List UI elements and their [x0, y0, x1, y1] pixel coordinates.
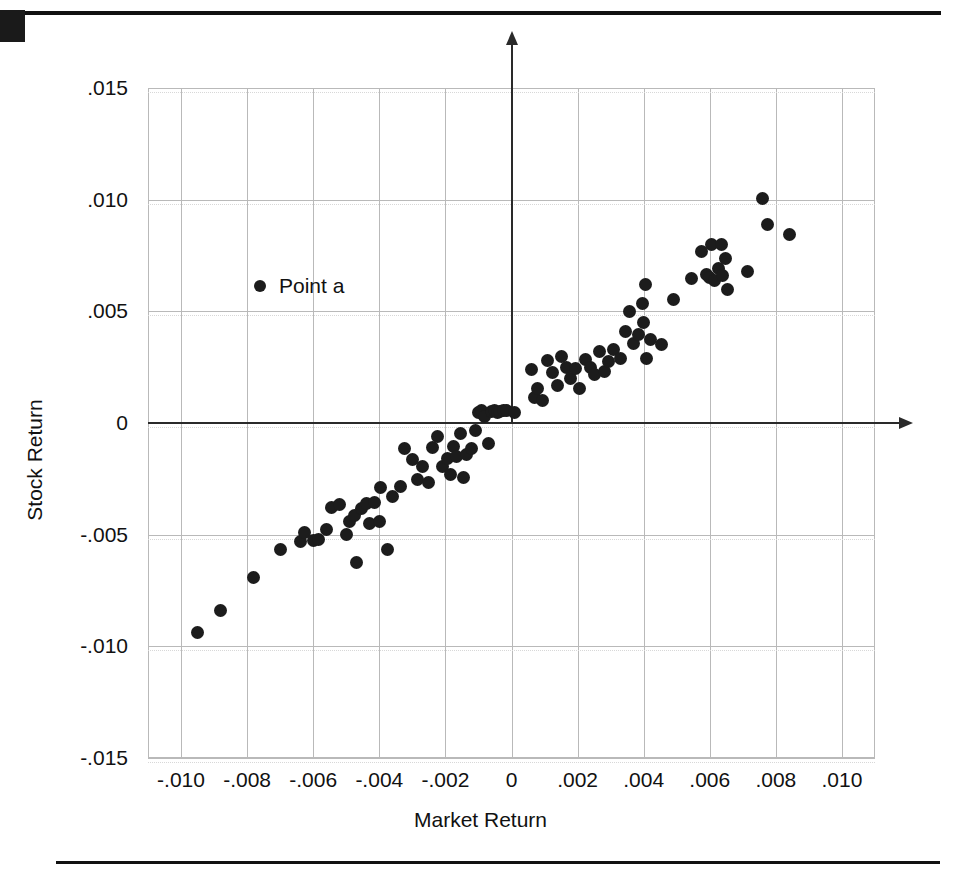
x-tick-label: -.010: [157, 768, 205, 792]
x-tick-label: -.006: [289, 768, 337, 792]
y-tick-label: .015: [0, 76, 128, 100]
x-axis-title: Market Return: [0, 808, 961, 832]
scatter-point: [469, 424, 482, 437]
y-tick-label: .005: [0, 299, 128, 323]
legend-label: Point a: [279, 274, 344, 298]
scatter-point: [761, 218, 774, 231]
x-tick-label: 0: [506, 768, 518, 792]
gridline-horizontal-dotted: [148, 539, 875, 540]
y-tick-label: -.005: [0, 523, 128, 547]
gridline-horizontal-dotted: [148, 762, 875, 763]
scatter-point: [667, 293, 680, 306]
scatter-point: [721, 283, 734, 296]
scatter-point: [416, 460, 429, 473]
scatter-point: [274, 543, 287, 556]
y-tick-label: 0: [0, 411, 128, 435]
scatter-point: [454, 427, 467, 440]
x-axis-line: [148, 422, 899, 424]
scatter-point: [525, 363, 538, 376]
scatter-point: [422, 476, 435, 489]
scatter-point: [482, 437, 495, 450]
scatter-point: [368, 496, 381, 509]
y-tick-label: -.010: [0, 634, 128, 658]
scatter-point: [444, 468, 457, 481]
gridline-horizontal: [148, 646, 875, 647]
gridline-horizontal: [148, 758, 875, 759]
x-tick-label: .010: [822, 768, 863, 792]
bottom-rule: [56, 861, 940, 864]
scatter-point: [247, 571, 260, 584]
legend: Point a: [254, 274, 344, 298]
top-rule: [25, 11, 941, 15]
scatter-point: [639, 278, 652, 291]
scatter-point: [426, 441, 439, 454]
gridline-horizontal: [148, 535, 875, 536]
corner-block-decoration: [0, 10, 25, 42]
scatter-point: [340, 528, 353, 541]
scatter-point: [715, 238, 728, 251]
y-axis-title: Stock Return: [23, 260, 47, 660]
scatter-point: [320, 523, 333, 536]
figure: Point a -.010-.008-.006-.004-.0020.002.0…: [0, 0, 961, 877]
x-axis-arrow-icon: [899, 417, 913, 429]
y-axis-line: [511, 45, 513, 423]
x-tick-label: .004: [623, 768, 664, 792]
x-tick-label: .008: [755, 768, 796, 792]
y-tick-label: .010: [0, 188, 128, 212]
scatter-point: [741, 265, 754, 278]
gridline-horizontal-dotted: [148, 427, 875, 428]
scatter-point: [350, 556, 363, 569]
scatter-point: [431, 430, 444, 443]
scatter-point: [373, 515, 386, 528]
scatter-point: [619, 325, 632, 338]
plot-area: Point a: [148, 88, 875, 758]
scatter-point: [614, 352, 627, 365]
x-tick-label: -.002: [421, 768, 469, 792]
x-tick-label: .006: [689, 768, 730, 792]
y-axis-arrow-icon: [506, 31, 518, 45]
x-tick-label: -.004: [355, 768, 403, 792]
scatter-point: [573, 382, 586, 395]
legend-marker-icon: [254, 280, 266, 292]
scatter-point: [636, 297, 649, 310]
scatter-point: [551, 379, 564, 392]
scatter-point: [783, 228, 796, 241]
y-tick-label: -.015: [0, 746, 128, 770]
x-tick-label: -.008: [223, 768, 271, 792]
scatter-point: [381, 543, 394, 556]
gridline-horizontal-dotted: [148, 650, 875, 651]
x-tick-label: .002: [557, 768, 598, 792]
